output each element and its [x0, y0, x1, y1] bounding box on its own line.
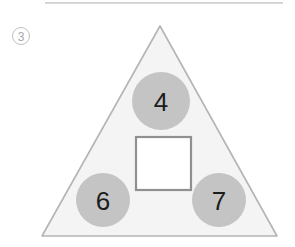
node-top-circle: 4	[132, 72, 190, 130]
figure-canvas: 3 4 6 7	[0, 0, 295, 247]
empty-square-shape[interactable]	[136, 137, 191, 190]
node-bottom-right-circle: 7	[192, 173, 246, 227]
puzzle-figure: 4 6 7	[0, 0, 295, 247]
bottom-left-circle-label: 6	[96, 186, 110, 216]
bottom-right-circle-label: 7	[212, 186, 226, 216]
top-circle-label: 4	[154, 87, 168, 117]
empty-square-slot[interactable]	[136, 137, 191, 190]
node-bottom-left-circle: 6	[76, 173, 130, 227]
